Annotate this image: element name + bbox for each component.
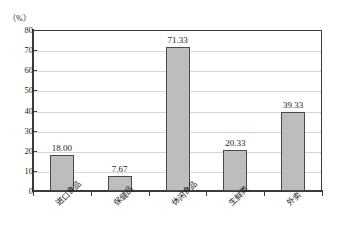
bar-value-label: 71.33	[167, 35, 187, 45]
y-axis-tick-label: 20	[7, 146, 33, 156]
y-axis-tick-label: 70	[7, 45, 33, 55]
x-axis-tick-mark	[322, 191, 323, 196]
y-axis-tick-label: 50	[7, 85, 33, 95]
y-axis-tick-label: 40	[7, 106, 33, 116]
x-axis-tick-mark	[91, 191, 92, 196]
bar-value-label: 18.00	[52, 143, 72, 153]
y-axis-tick-label: 60	[7, 65, 33, 75]
x-axis-tick-mark	[206, 191, 207, 196]
x-axis-tick-mark	[149, 191, 150, 196]
y-axis-tick-label: 30	[7, 126, 33, 136]
bar[interactable]	[281, 112, 305, 191]
y-axis-tick-mark	[33, 70, 37, 71]
bar[interactable]	[166, 47, 190, 191]
x-axis-tick-mark	[264, 191, 265, 196]
y-axis-tick-mark	[33, 131, 37, 132]
bar-value-label: 39.33	[283, 100, 303, 110]
y-axis-tick-marks	[33, 0, 39, 250]
bar-value-label: 20.33	[225, 138, 245, 148]
y-axis-tick-labels: 01020304050607080	[0, 0, 33, 250]
y-axis-tick-mark	[33, 30, 37, 31]
y-axis-tick-label: 10	[7, 166, 33, 176]
y-axis-tick-mark	[33, 50, 37, 51]
bar-value-label: 7.67	[112, 164, 128, 174]
y-axis-tick-label: 80	[7, 25, 33, 35]
y-axis-tick-mark	[33, 171, 37, 172]
y-axis-tick-mark	[33, 151, 37, 152]
y-axis-tick-mark	[33, 111, 37, 112]
x-axis-tick-mark	[33, 191, 34, 196]
x-axis-category-label: 外卖	[284, 189, 303, 208]
bar-chart-figure: （%） 01020304050607080 18.007.6771.3320.3…	[0, 0, 337, 250]
y-axis-tick-label: 0	[7, 186, 33, 196]
y-axis-tick-mark	[33, 90, 37, 91]
